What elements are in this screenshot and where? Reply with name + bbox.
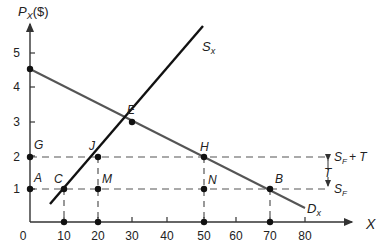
point-n bbox=[201, 186, 207, 192]
point-b bbox=[267, 186, 273, 192]
x-axis bbox=[30, 217, 352, 222]
tariff-gap-label: T bbox=[324, 166, 333, 180]
y-tick-1: 1 bbox=[13, 182, 20, 196]
label-j: J bbox=[88, 139, 96, 153]
label-e: E bbox=[127, 103, 136, 117]
label-a: A bbox=[33, 171, 42, 185]
tariff-price-label: SF+ T bbox=[334, 150, 368, 166]
label-h: H bbox=[200, 140, 209, 154]
x-tick-70: 70 bbox=[263, 229, 277, 243]
label-c: C bbox=[54, 172, 63, 186]
free-trade-price-label: SF bbox=[334, 182, 348, 198]
supply-label: Sx bbox=[202, 39, 216, 56]
y-tick-3: 3 bbox=[13, 115, 20, 129]
supply-demand-diagram: 1 2 3 4 5 0 10 20 30 40 50 60 70 80 PX($… bbox=[0, 0, 387, 251]
x-tick-20: 20 bbox=[91, 229, 105, 243]
x-tick-30: 30 bbox=[125, 229, 139, 243]
y-tick-4: 4 bbox=[13, 80, 20, 94]
y-axis-label: PX($) bbox=[18, 4, 49, 21]
x-tick-10: 10 bbox=[57, 229, 71, 243]
y-axis bbox=[30, 24, 35, 222]
label-g: G bbox=[34, 138, 43, 152]
point-h bbox=[201, 154, 207, 160]
point-e bbox=[129, 119, 135, 125]
x-tick-60: 60 bbox=[229, 229, 243, 243]
x-tick-50: 50 bbox=[197, 229, 211, 243]
point-c bbox=[61, 186, 67, 192]
label-b: B bbox=[275, 172, 283, 186]
y-tick-2: 2 bbox=[13, 150, 20, 164]
origin-label: 0 bbox=[20, 229, 27, 243]
label-m: M bbox=[102, 172, 112, 186]
demand-label: Dx bbox=[307, 201, 321, 218]
x-axis-label: X bbox=[365, 216, 376, 232]
x-tick-80: 80 bbox=[298, 229, 312, 243]
point-g bbox=[27, 154, 33, 160]
point-a bbox=[27, 186, 33, 192]
y-tick-5: 5 bbox=[13, 46, 20, 60]
x-tick-40: 40 bbox=[160, 229, 174, 243]
label-n: N bbox=[208, 173, 217, 187]
point-j bbox=[95, 154, 101, 160]
point-m bbox=[95, 186, 101, 192]
point-demand-intercept bbox=[27, 66, 33, 72]
demand-curve bbox=[30, 69, 305, 208]
